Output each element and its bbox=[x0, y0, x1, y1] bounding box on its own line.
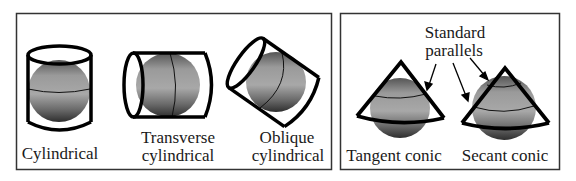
oblique-label-line2: cylindrical bbox=[252, 146, 325, 165]
map-projection-diagram: Cylindrical Transverse cylindrical Obliq… bbox=[0, 0, 576, 181]
cylindrical-figure bbox=[28, 46, 91, 130]
oblique-cylindrical-figure bbox=[221, 33, 323, 130]
secant-conic-label: Secant conic bbox=[462, 146, 549, 165]
oblique-label-line1: Oblique bbox=[260, 128, 315, 147]
standard-parallels-label-line1: Standard bbox=[425, 23, 486, 42]
secant-conic-figure bbox=[462, 68, 549, 140]
transverse-label-line1: Transverse bbox=[141, 128, 215, 147]
tangent-conic-label: Tangent conic bbox=[346, 146, 442, 165]
transverse-cylindrical-figure bbox=[124, 53, 212, 117]
transverse-label-line2: cylindrical bbox=[142, 146, 215, 165]
cylindrical-label: Cylindrical bbox=[22, 144, 99, 163]
tangent-conic-figure bbox=[357, 62, 444, 138]
standard-parallels-label-line2: parallels bbox=[425, 41, 483, 60]
